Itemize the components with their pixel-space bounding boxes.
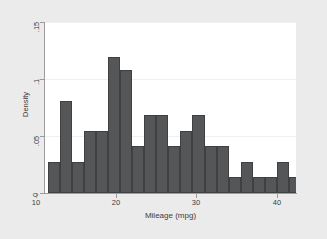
histogram-bars bbox=[44, 22, 296, 193]
y-tick bbox=[40, 193, 44, 194]
x-tick-label: 40 bbox=[262, 199, 292, 207]
histogram-bar bbox=[156, 115, 168, 193]
histogram-bar bbox=[289, 177, 296, 193]
x-tick-label: 10 bbox=[21, 199, 51, 207]
histogram-bar bbox=[168, 146, 180, 193]
y-tick-label: .15 bbox=[32, 22, 40, 32]
histogram-bar bbox=[120, 70, 132, 193]
y-axis-title: Density bbox=[21, 75, 30, 135]
x-tick-label: 20 bbox=[101, 199, 131, 207]
y-tick-label: .1 bbox=[32, 79, 40, 85]
histogram-bar bbox=[241, 162, 253, 193]
histogram-bar bbox=[229, 177, 241, 193]
histogram-bar bbox=[60, 101, 72, 193]
histogram-bar bbox=[72, 162, 84, 193]
histogram-bar bbox=[180, 131, 192, 193]
x-axis-title: Mileage (mpg) bbox=[44, 211, 297, 220]
y-axis-line bbox=[44, 22, 45, 194]
histogram-bar bbox=[205, 146, 217, 193]
histogram-bar bbox=[48, 162, 60, 193]
histogram-figure: 0.05.1.15 10203040 Density Mileage (mpg) bbox=[0, 0, 327, 239]
histogram-bar bbox=[265, 177, 277, 193]
x-axis-line bbox=[44, 193, 297, 194]
histogram-bar bbox=[108, 57, 120, 193]
histogram-bar bbox=[192, 115, 204, 193]
histogram-bar bbox=[253, 177, 265, 193]
plot-area bbox=[44, 22, 296, 193]
x-tick-label: 30 bbox=[181, 199, 211, 207]
histogram-bar bbox=[96, 131, 108, 193]
histogram-bar bbox=[144, 115, 156, 193]
y-tick-label: .05 bbox=[32, 136, 40, 146]
histogram-bar bbox=[84, 131, 96, 193]
histogram-bar bbox=[217, 146, 229, 193]
histogram-bar bbox=[132, 146, 144, 193]
y-tick bbox=[40, 79, 44, 80]
histogram-bar bbox=[277, 162, 289, 193]
